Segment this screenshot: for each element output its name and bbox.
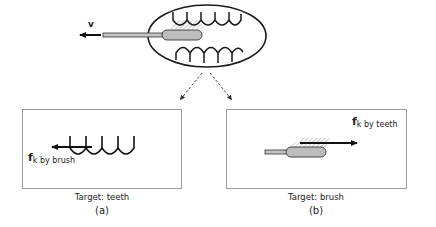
panel-a-teeth <box>70 136 134 154</box>
mouth-figure <box>80 5 266 67</box>
velocity-label: v <box>88 19 94 29</box>
force-label-b: fk by teeth <box>352 115 398 129</box>
caption-b: Target: brush <box>276 192 356 202</box>
brush-head <box>162 30 202 40</box>
panel-b-brush-head <box>286 147 326 157</box>
bristle-hatch <box>170 20 204 29</box>
brush-handle <box>103 33 165 37</box>
dashed-arrow-left <box>180 73 202 100</box>
panel-label-b: (b) <box>276 205 356 216</box>
force-subscript-a: k by brush <box>33 156 75 165</box>
dashed-arrow-right <box>210 73 232 100</box>
force-subscript-b: k by teeth <box>357 120 398 129</box>
caption-a: Target: teeth <box>62 192 142 202</box>
force-label-a: fk by brush <box>28 151 75 165</box>
panel-label-a: (a) <box>62 205 142 216</box>
